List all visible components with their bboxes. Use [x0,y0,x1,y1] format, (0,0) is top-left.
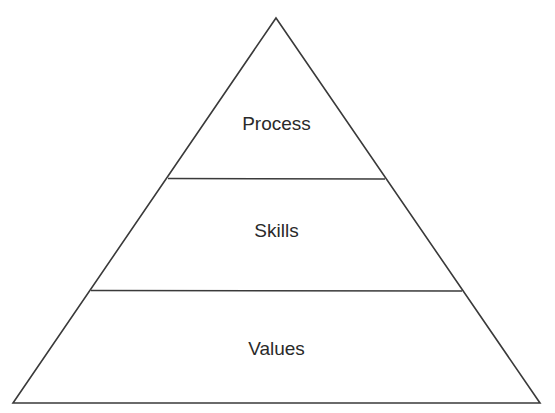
tier-label-skills: Skills [0,220,554,242]
tier-label-values: Values [0,338,554,360]
tier-label-process: Process [0,113,554,135]
pyramid-diagram: Process Skills Values [0,0,555,413]
tier-divider-top [168,179,385,180]
tier-divider-bottom [91,291,462,292]
